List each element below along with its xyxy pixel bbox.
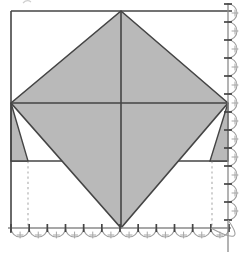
bottom-perforated-edge — [8, 224, 231, 238]
shaded-diamond — [11, 11, 228, 228]
figure-page — [0, 0, 243, 257]
scan-artifact — [23, 1, 31, 3]
geometry-figure — [0, 0, 243, 257]
